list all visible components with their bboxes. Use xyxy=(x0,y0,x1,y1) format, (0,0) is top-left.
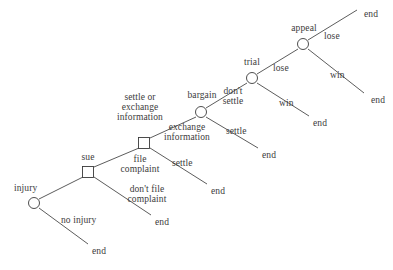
edge-label-settle-from-bargain: settle xyxy=(226,126,247,136)
edge-label-no-injury: no injury xyxy=(61,215,96,225)
edge-label-dont-settle: don't settle xyxy=(214,86,252,106)
node-bargain[interactable] xyxy=(196,107,207,118)
edge-label-file-complaint: file complaint xyxy=(112,154,168,174)
edge-injury-to-sue xyxy=(39,177,83,199)
node-trial[interactable] xyxy=(247,73,258,84)
node-settle-or-exchange-information[interactable] xyxy=(139,138,150,149)
node-injury[interactable] xyxy=(29,198,40,209)
node-label-sue: sue xyxy=(68,152,108,162)
edge-label-lose-from-appeal: lose xyxy=(324,31,340,41)
terminal-label-end-win-trial: end xyxy=(313,118,327,128)
terminal-label-end-settle-2: end xyxy=(262,150,276,160)
terminal-label-end-lose-appeal: end xyxy=(364,9,378,19)
decision-tree-diagram: injury sue settle or exchange informatio… xyxy=(0,0,393,270)
edge-label-win-from-appeal: win xyxy=(330,70,345,80)
edge-label-win-from-trial: win xyxy=(279,98,294,108)
node-label-settle-or-exchange-information: settle or exchange information xyxy=(104,92,176,122)
terminal-label-end-win-appeal: end xyxy=(371,95,385,105)
terminal-label-end-settle-1: end xyxy=(211,186,225,196)
node-label-appeal: appeal xyxy=(283,23,325,33)
terminal-label-end-dont-file: end xyxy=(155,217,169,227)
edge-label-lose-from-trial: lose xyxy=(273,63,289,73)
edge-label-exchange-information: exchange information xyxy=(154,122,220,142)
edge-label-dont-file-complaint: don't file complaint xyxy=(116,184,178,204)
edge-injury-to-end-no-injury xyxy=(39,208,88,244)
node-label-trial: trial xyxy=(235,57,269,67)
edge-label-settle-from-settle-or-exchange: settle xyxy=(172,158,193,168)
node-appeal[interactable] xyxy=(298,39,309,50)
node-label-injury: injury xyxy=(14,183,37,193)
node-sue[interactable] xyxy=(83,167,94,178)
terminal-label-end-no-injury: end xyxy=(92,246,106,256)
